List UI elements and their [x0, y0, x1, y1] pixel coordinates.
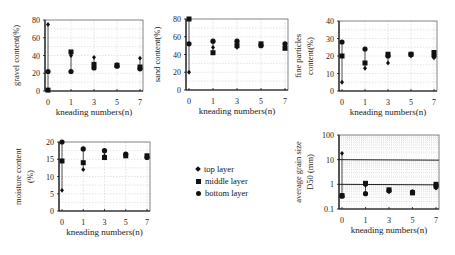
x-tick-label: 0	[340, 98, 344, 107]
x-tick-label: 3	[235, 97, 239, 106]
y-tick-label: 0	[330, 87, 334, 96]
y-tick-label: 10	[46, 173, 54, 182]
legend-item-bottom-layer: bottom layer	[196, 187, 248, 199]
data-point-circle	[91, 65, 96, 70]
data-point-circle	[408, 52, 413, 57]
data-point-circle	[362, 46, 367, 51]
legend-label: bottom layer	[205, 187, 248, 199]
data-point-square	[102, 155, 107, 160]
data-point-circle	[210, 39, 215, 44]
x-tick-label: 5	[124, 218, 128, 227]
y-tick-label: 30	[326, 35, 334, 44]
y-axis-label: sand content(%)	[152, 27, 162, 83]
x-tick-label: 0	[60, 218, 64, 227]
y-tick-label: 100	[322, 131, 334, 140]
circle-marker-icon	[196, 191, 201, 196]
data-point-circle	[234, 39, 239, 44]
y-tick-label: 10	[326, 156, 334, 165]
data-point-square	[235, 43, 240, 48]
data-point-circle	[59, 139, 64, 144]
data-point-circle	[81, 146, 86, 151]
data-point-diamond	[340, 151, 344, 156]
data-point-circle	[123, 151, 128, 156]
x-tick-label: 1	[69, 98, 73, 107]
y-tick-label: 0.1	[324, 205, 334, 214]
data-point-circle	[410, 190, 415, 195]
chart-panel-1: 02040608001357kneading numbers(n)sand co…	[152, 15, 288, 116]
data-point-circle	[385, 53, 390, 58]
data-point-diamond	[46, 22, 50, 27]
y-axis-label: moisture content	[13, 147, 23, 205]
y-axis-label: (%)	[25, 170, 35, 183]
reference-line	[339, 160, 439, 161]
legend-label: middle layer	[205, 175, 248, 187]
x-tick-label: 5	[409, 98, 413, 107]
data-point-circle	[45, 69, 50, 74]
y-tick-label: 60	[32, 34, 40, 43]
data-point-circle	[282, 41, 287, 46]
x-tick-label: 5	[115, 98, 119, 107]
x-tick-label: 7	[138, 98, 142, 107]
x-tick-label: 7	[145, 218, 149, 227]
data-point-square	[60, 158, 65, 163]
data-point-circle	[431, 53, 436, 58]
y-tick-label: 0	[50, 207, 54, 216]
x-axis-label: kneading numbers(n)	[199, 106, 276, 116]
y-tick-label: 60	[173, 33, 181, 42]
x-tick-label: 5	[259, 97, 263, 106]
data-point-square	[187, 17, 192, 22]
x-tick-label: 0	[187, 97, 191, 106]
legend-item-middle-layer: middle layer	[196, 175, 248, 187]
y-tick-label: 80	[173, 15, 181, 24]
y-axis-label: fine particles	[293, 34, 303, 78]
x-axis-label: kneading numbers(n)	[56, 107, 133, 117]
legend-label: top layer	[204, 163, 234, 175]
data-point-square	[46, 88, 51, 93]
chart-panel-3: 0510152001357kneading numbers(n)moisture…	[13, 138, 150, 237]
x-tick-label: 7	[283, 97, 287, 106]
chart-panel-0: 02040608001357kneading numbers(n)gravel …	[11, 16, 143, 117]
data-point-square	[363, 181, 368, 186]
y-tick-label: 80	[32, 16, 40, 25]
data-point-circle	[114, 64, 119, 69]
y-tick-label: 15	[46, 155, 54, 164]
data-point-circle	[144, 155, 149, 160]
x-tick-label: 0	[340, 216, 344, 225]
data-point-diamond	[187, 70, 191, 75]
data-point-diamond	[92, 55, 96, 60]
x-tick-label: 1	[363, 98, 367, 107]
data-point-circle	[137, 66, 142, 71]
chart-panel-2: 01020304001357kneading numbers(n)fine pa…	[293, 17, 437, 117]
data-point-circle	[339, 194, 344, 199]
data-point-circle	[68, 69, 73, 74]
x-tick-label: 3	[387, 216, 391, 225]
data-point-circle	[433, 184, 438, 189]
x-axis-label: kneading numbers(n)	[351, 225, 428, 235]
data-point-diamond	[386, 61, 390, 66]
x-axis-label: kneading numbers(n)	[66, 227, 143, 237]
data-point-square	[69, 49, 74, 54]
x-tick-label: 3	[386, 98, 390, 107]
y-tick-label: 20	[173, 68, 181, 77]
y-tick-label: 0	[177, 86, 181, 95]
x-tick-label: 1	[81, 218, 85, 227]
y-tick-label: 40	[173, 51, 181, 60]
data-point-diamond	[363, 66, 367, 71]
data-point-square	[363, 61, 368, 66]
reference-line	[339, 184, 439, 185]
square-marker-icon	[196, 179, 201, 184]
data-point-square	[283, 46, 288, 51]
data-point-circle	[386, 188, 391, 193]
y-tick-label: 5	[50, 190, 54, 199]
data-point-circle	[339, 39, 344, 44]
data-point-diamond	[138, 56, 142, 61]
data-point-square	[340, 54, 345, 59]
x-tick-label: 5	[411, 216, 415, 225]
data-point-circle	[102, 148, 107, 153]
y-tick-label: 10	[326, 70, 334, 79]
x-tick-label: 1	[211, 97, 215, 106]
y-tick-label: 20	[326, 52, 334, 61]
y-axis-label: content(%)	[305, 37, 315, 75]
y-tick-label: 40	[326, 17, 334, 26]
x-tick-label: 7	[434, 216, 438, 225]
